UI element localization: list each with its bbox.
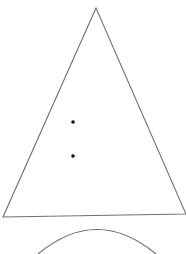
dots-group xyxy=(71,120,75,158)
diagram-canvas xyxy=(0,0,186,254)
dot-1 xyxy=(71,120,75,124)
arc-shape xyxy=(38,230,156,254)
triangle-shape xyxy=(3,8,186,217)
dot-2 xyxy=(71,154,75,158)
